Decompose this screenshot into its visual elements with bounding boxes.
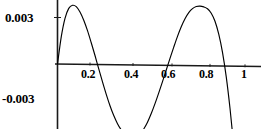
- y-axis-tick-label-negative: -0.003: [2, 92, 34, 105]
- chart-plot-area: [0, 0, 261, 129]
- y-axis-tick-label-positive: 0.003: [5, 11, 33, 24]
- chart-figure: 0.003 -0.003 0.2 0.4 0.6 0.8 1: [0, 0, 261, 129]
- x-axis-tick-label-0-8: 0.8: [199, 68, 213, 80]
- x-axis-tick-label-0-4: 0.4: [124, 68, 138, 80]
- x-axis-tick-label-1: 1: [241, 68, 247, 80]
- x-axis-tick-label-0-6: 0.6: [161, 68, 175, 80]
- x-axis-tick-label-0-2: 0.2: [81, 68, 95, 80]
